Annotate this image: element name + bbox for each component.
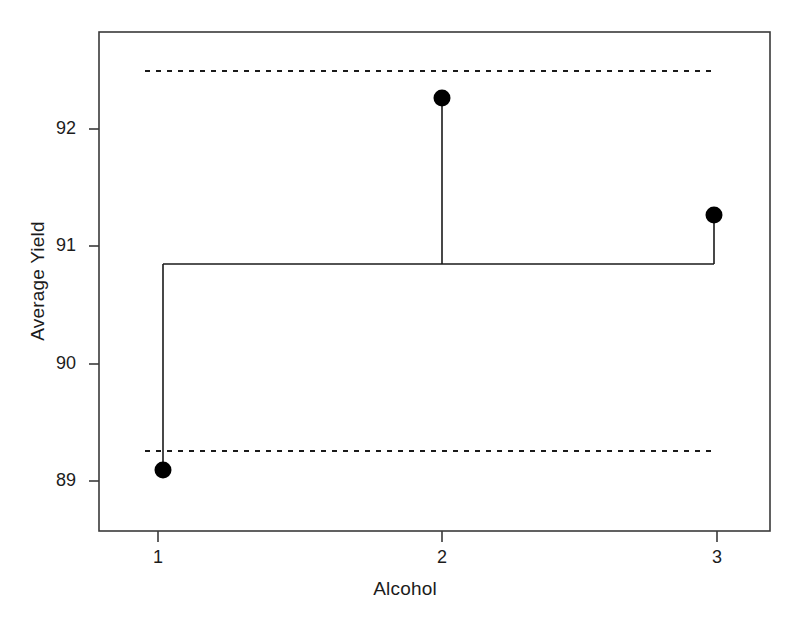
x-tick-label-3: 3 xyxy=(697,547,737,568)
plot-canvas xyxy=(0,0,810,625)
y-tick-label-89: 89 xyxy=(16,470,76,491)
y-axis-title: Average Yield xyxy=(27,181,49,381)
main-effects-chart: 92 91 90 89 1 2 3 Alcohol Average Yield xyxy=(0,0,810,625)
data-point-3 xyxy=(706,207,723,224)
data-point-1 xyxy=(155,462,172,479)
y-tick-marks xyxy=(89,129,99,481)
x-axis-title: Alcohol xyxy=(0,578,810,600)
y-tick-label-92: 92 xyxy=(16,118,76,139)
data-point-2 xyxy=(434,90,451,107)
x-tick-label-1: 1 xyxy=(138,547,178,568)
x-tick-label-2: 2 xyxy=(422,547,462,568)
x-tick-marks xyxy=(158,531,717,542)
plot-frame xyxy=(99,32,770,531)
